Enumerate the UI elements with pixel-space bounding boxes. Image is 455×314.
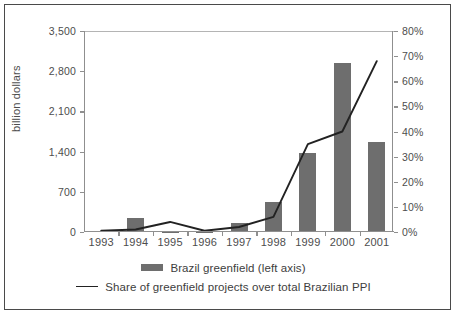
chart-figure: billion dollars 07001,4002,1002,8003,500…: [0, 0, 455, 314]
y-tick-mark: [80, 192, 84, 193]
y2-tick-mark: [394, 157, 398, 158]
y2-tick-mark: [394, 182, 398, 183]
x-tick-mark: [360, 232, 361, 236]
legend-item-bar: Brazil greenfield (left axis): [0, 258, 447, 277]
x-tick-label-2001: 2001: [364, 236, 389, 248]
y2-tick-mark: [394, 232, 398, 233]
x-tick-mark: [187, 232, 188, 236]
y-tick-label: 2,100: [49, 105, 76, 117]
x-tick-mark: [118, 232, 119, 236]
line-swatch-icon: [76, 286, 98, 287]
y-tick-mark: [80, 71, 84, 72]
x-tick-mark: [222, 232, 223, 236]
y-axis-title: billion dollars: [10, 65, 22, 132]
y2-tick-label: 20%: [402, 176, 424, 188]
legend-item-line: Share of greenfield projects over total …: [0, 277, 447, 296]
line-series-layer: [84, 31, 394, 232]
x-tick-label-1998: 1998: [261, 236, 286, 248]
legend-label-bar: Brazil greenfield (left axis): [170, 262, 305, 274]
y-tick-mark: [80, 232, 84, 233]
y-tick-label: 0: [70, 226, 76, 238]
y2-tick-mark: [394, 132, 398, 133]
x-tick-mark: [291, 232, 292, 236]
y2-tick-mark: [394, 56, 398, 57]
axis-top-rule: [84, 31, 394, 32]
y-tick-label: 1,400: [49, 146, 76, 158]
y2-tick-label: 50%: [402, 100, 424, 112]
y-tick-label: 700: [58, 186, 76, 198]
legend-label-line: Share of greenfield projects over total …: [105, 281, 370, 293]
x-tick-label-1994: 1994: [123, 236, 148, 248]
y-tick-mark: [80, 31, 84, 32]
x-tick-label-1995: 1995: [157, 236, 182, 248]
y-tick-label: 3,500: [49, 25, 76, 37]
x-tick-mark: [256, 232, 257, 236]
y2-tick-label: 30%: [402, 151, 424, 163]
x-tick-label-1999: 1999: [295, 236, 320, 248]
x-tick-label-2000: 2000: [330, 236, 355, 248]
y-axis-left-line: [84, 31, 85, 232]
y2-tick-mark: [394, 81, 398, 82]
chart-legend: Brazil greenfield (left axis) Share of g…: [0, 258, 447, 296]
x-tick-label-1996: 1996: [192, 236, 217, 248]
y2-tick-label: 40%: [402, 126, 424, 138]
y-tick-mark: [80, 152, 84, 153]
x-axis-line: [84, 231, 394, 232]
y2-tick-label: 80%: [402, 25, 424, 37]
bar-swatch-icon: [141, 264, 163, 271]
y2-tick-mark: [394, 207, 398, 208]
share-line: [101, 61, 377, 231]
y2-tick-label: 60%: [402, 75, 424, 87]
x-tick-label-1993: 1993: [89, 236, 114, 248]
y-tick-label: 2,800: [49, 65, 76, 77]
y2-tick-label: 10%: [402, 201, 424, 213]
y2-tick-mark: [394, 31, 398, 32]
y2-tick-label: 0%: [402, 226, 418, 238]
y2-tick-label: 70%: [402, 50, 424, 62]
y2-tick-mark: [394, 106, 398, 107]
x-tick-mark: [325, 232, 326, 236]
y-tick-mark: [80, 111, 84, 112]
x-tick-mark: [153, 232, 154, 236]
x-tick-label-1997: 1997: [226, 236, 251, 248]
